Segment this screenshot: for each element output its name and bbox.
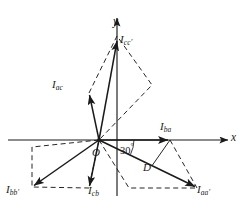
vector-label-icb-sub: cb: [92, 189, 99, 198]
vector-label-iaa-sub: aa′: [201, 188, 211, 197]
vector-label-iba-sub: ba: [164, 125, 172, 134]
origin-label: O: [92, 147, 100, 158]
vector-label-iac: Iac: [52, 79, 63, 90]
origin-point: [97, 138, 101, 142]
vector-label-iac-sub: ac: [56, 83, 63, 92]
vector-label-iba: Iba: [160, 121, 172, 132]
vector-iac: [90, 95, 100, 140]
vector-label-ibb-sub: bb′: [10, 188, 20, 197]
phasor-diagram-canvas: [0, 0, 242, 212]
vector-label-icc: Icc′: [120, 34, 133, 45]
y-axis-label: y: [113, 16, 118, 28]
vector-label-ibb: Ibb′: [6, 184, 19, 195]
axes-group: [8, 18, 228, 196]
point-label-d: D: [143, 162, 151, 173]
vector-ibb: [34, 140, 99, 186]
phasor-diagram-figure: y x O D 30° Icc′ Iac Iba Iaa′ Icb Ibb′: [0, 0, 242, 212]
vector-label-icb: Icb: [88, 185, 99, 196]
angle-label-30deg: 30°: [120, 143, 134, 156]
vector-label-icc-sub: cc′: [124, 38, 133, 47]
degree-symbol: °: [131, 142, 134, 151]
d-segment: [153, 140, 171, 165]
x-axis-label: x: [231, 132, 236, 144]
vector-label-iaa: Iaa′: [197, 184, 210, 195]
angle-value: 30: [120, 145, 131, 156]
dashed-upper-rhombus: [89, 36, 152, 140]
vector-icc: [99, 41, 117, 140]
